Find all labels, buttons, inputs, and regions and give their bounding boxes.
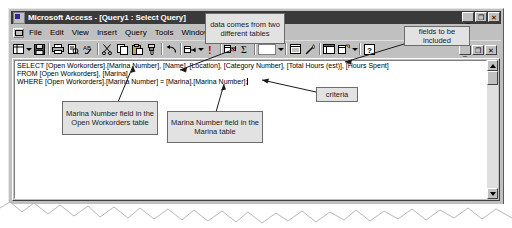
annotation-text: fields to be included (408, 27, 466, 45)
annotation-text: Marina Number field in the Open Workorde… (66, 109, 154, 127)
annotation-marina-number-marina-table: Marina Number field in the Marina table (167, 111, 263, 143)
annotation-text: Marina Number field in the Marina table (171, 118, 259, 136)
annotation-text: data comes from two different tables (209, 20, 281, 38)
annotation-data-comes-from-two-tables: data comes from two different tables (205, 13, 285, 44)
annotation-text: criteria (326, 90, 349, 99)
annotation-marina-number-open-workorders: Marina Number field in the Open Workorde… (62, 101, 158, 135)
annotation-fields-to-be-included: fields to be included (404, 26, 470, 46)
annotation-criteria: criteria (316, 87, 358, 102)
